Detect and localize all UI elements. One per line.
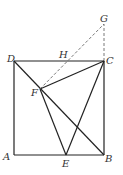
segment-fg-dashed [40,24,104,89]
label-b: B [104,153,112,164]
label-g: G [100,13,108,24]
label-e: E [61,158,70,169]
label-f: F [30,87,39,98]
label-d: D [6,53,15,64]
segment-db [14,61,104,155]
label-c: C [106,55,114,66]
label-h: H [58,49,68,60]
label-a: A [2,151,10,162]
segment-fe [40,89,66,155]
geometry-diagram: A B C D E F G H [0,0,123,175]
